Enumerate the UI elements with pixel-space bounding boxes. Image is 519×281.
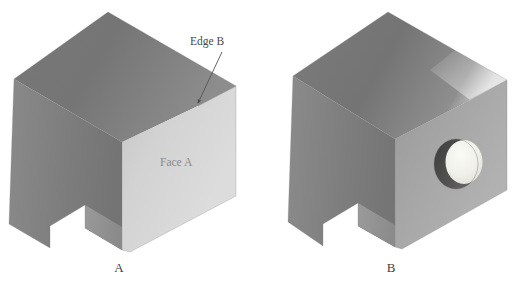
panel-b-caption: B xyxy=(387,260,396,275)
panel-b-bore-face xyxy=(446,140,483,184)
edge-b-label: Edge B xyxy=(190,35,225,48)
panel-a-caption: A xyxy=(114,260,124,275)
figure-plate: Edge B Face A A xyxy=(0,0,519,281)
face-a-label: Face A xyxy=(160,156,193,168)
illustration-canvas: Edge B Face A A xyxy=(0,0,519,281)
